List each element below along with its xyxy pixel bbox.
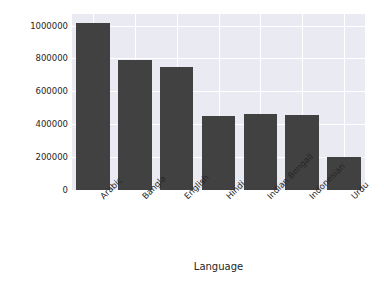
x-tick-label: Indonesian — [307, 194, 314, 201]
x-tick-label: Indian Bengali — [265, 194, 272, 201]
y-tick-label: 1000000 — [0, 21, 68, 32]
x-tick-label: Arabic — [98, 194, 105, 201]
x-tick-label: English — [182, 194, 189, 201]
bar — [76, 23, 109, 190]
bar — [118, 60, 151, 190]
y-tick-label: 400000 — [0, 119, 68, 130]
bar — [244, 114, 277, 190]
bar-chart-figure: Vocabulary Size 020000040000060000080000… — [0, 0, 384, 285]
x-tick-label: Urdu — [349, 194, 356, 201]
y-tick-label: 800000 — [0, 53, 68, 64]
y-tick-label: 200000 — [0, 152, 68, 163]
plot-area — [72, 14, 365, 190]
y-tick-label: 600000 — [0, 86, 68, 97]
x-axis-label: Language — [72, 261, 365, 272]
x-tick-label: Bangla — [140, 194, 147, 201]
x-tick-label: Hindi — [224, 194, 231, 201]
bar — [160, 67, 193, 190]
y-tick-label: 0 — [0, 185, 68, 196]
